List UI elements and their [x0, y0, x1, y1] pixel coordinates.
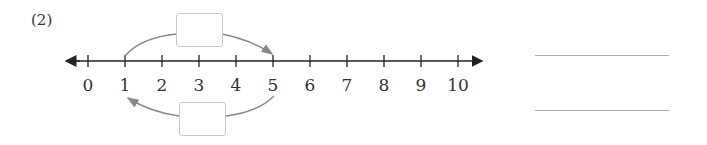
tick-label: 0	[73, 75, 103, 95]
tick-label: 2	[147, 75, 177, 95]
answer-line-2[interactable]	[535, 110, 669, 111]
number-line	[0, 0, 707, 145]
answer-line-1[interactable]	[535, 55, 669, 56]
tick-label: 4	[221, 75, 251, 95]
answer-box-bottom[interactable]	[179, 102, 226, 136]
tick-label: 3	[184, 75, 214, 95]
tick-label: 10	[443, 75, 473, 95]
answer-box-top[interactable]	[176, 13, 223, 47]
tick-label: 1	[110, 75, 140, 95]
tick-label: 9	[406, 75, 436, 95]
tick-label: 5	[258, 75, 288, 95]
tick-label: 7	[332, 75, 362, 95]
tick-label: 6	[295, 75, 325, 95]
tick-label: 8	[369, 75, 399, 95]
